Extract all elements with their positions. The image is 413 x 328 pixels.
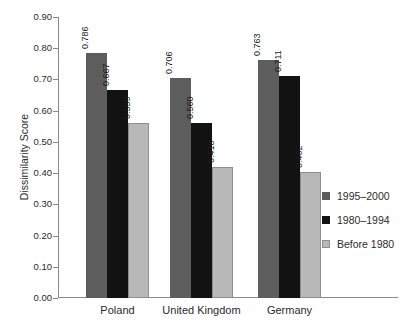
value-label: 0.706 xyxy=(164,51,175,74)
legend-swatch-icon xyxy=(322,216,330,224)
legend-swatch-icon xyxy=(322,192,330,200)
legend-label: Before 1980 xyxy=(337,238,394,250)
bar-chart: Dissimilarity Score 0.900.800.700.600.50… xyxy=(0,0,413,328)
y-tick-mark xyxy=(53,48,58,49)
y-tick-label: 0.20 xyxy=(24,230,52,242)
y-tick-label: 0.30 xyxy=(24,198,52,210)
value-label: 0.667 xyxy=(101,63,112,86)
value-label: 0.763 xyxy=(252,33,263,56)
bar-before-1980-germany xyxy=(300,172,321,298)
legend-label: 1995–2000 xyxy=(337,190,390,202)
bar-1980-1994-poland xyxy=(107,90,128,298)
y-axis-line xyxy=(58,17,59,298)
y-tick-mark xyxy=(53,298,58,299)
y-tick-mark xyxy=(53,17,58,18)
y-axis-title: Dissimilarity Score xyxy=(18,102,30,212)
y-tick-mark xyxy=(53,173,58,174)
bar-1980-1994-germany xyxy=(279,76,300,298)
value-label: 0.711 xyxy=(273,50,284,72)
legend-label: 1980–1994 xyxy=(337,214,390,226)
value-label: 0.786 xyxy=(80,26,91,49)
y-tick-mark xyxy=(53,204,58,205)
bar-before-1980-united-kingdom xyxy=(212,167,233,298)
y-tick-mark xyxy=(53,236,58,237)
bar-1995-2000-poland xyxy=(86,53,107,298)
y-tick-label: 0.60 xyxy=(24,105,52,117)
y-tick-label: 0.00 xyxy=(24,292,52,304)
legend-item-1995-2000: 1995–2000 xyxy=(322,184,390,208)
y-tick-mark xyxy=(53,111,58,112)
y-tick-mark xyxy=(53,267,58,268)
bar-before-1980-poland xyxy=(128,123,149,298)
x-category-label-germany: Germany xyxy=(230,304,350,316)
legend-item-before-1980: Before 1980 xyxy=(322,232,394,256)
y-tick-mark xyxy=(53,79,58,80)
y-tick-label: 0.10 xyxy=(24,261,52,273)
y-tick-label: 0.90 xyxy=(24,11,52,23)
value-label: 0.418 xyxy=(206,141,217,164)
value-label: 0.402 xyxy=(294,146,305,169)
value-label: 0.559 xyxy=(122,97,133,120)
y-tick-label: 0.80 xyxy=(24,42,52,54)
legend-item-1980-1994: 1980–1994 xyxy=(322,208,390,232)
legend-swatch-icon xyxy=(322,240,330,248)
y-tick-mark xyxy=(53,142,58,143)
y-tick-label: 0.40 xyxy=(24,167,52,179)
bar-1995-2000-germany xyxy=(258,60,279,298)
y-tick-label: 0.70 xyxy=(24,73,52,85)
y-tick-label: 0.50 xyxy=(24,136,52,148)
value-label: 0.560 xyxy=(185,97,196,120)
